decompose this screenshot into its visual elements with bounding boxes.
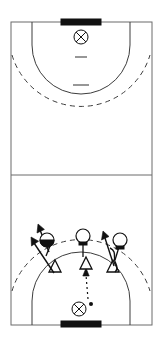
attacker-left: [40, 233, 54, 256]
attacker-circle: [76, 229, 90, 243]
nine-meter-line-top: [12, 55, 150, 106]
bottom-goal: [61, 321, 101, 327]
pass-goalkeeper-to-centre: [83, 268, 89, 299]
court-canvas: [0, 0, 164, 346]
attacker-circle: [113, 233, 127, 247]
movement-line: [105, 238, 114, 266]
goal-bottom: [61, 321, 101, 327]
defender-center: [80, 257, 92, 269]
court-outline: [11, 22, 152, 325]
top-goal: [61, 19, 101, 25]
top-goalkeeper: [74, 30, 88, 44]
defender-triangle: [80, 257, 92, 269]
goal-top: [61, 19, 101, 25]
nine-meter-line-bottom: [12, 240, 150, 291]
court-boundary: [11, 22, 152, 325]
bottom-goalkeeper: [72, 302, 86, 316]
handball-tactics-diagram: [0, 0, 164, 346]
pass-line: [86, 275, 88, 299]
attacker-fill-half: [40, 240, 54, 247]
attacker-fill-base: [79, 242, 87, 245]
attacker-fill-base: [116, 246, 124, 249]
ball-icon: [89, 302, 93, 306]
